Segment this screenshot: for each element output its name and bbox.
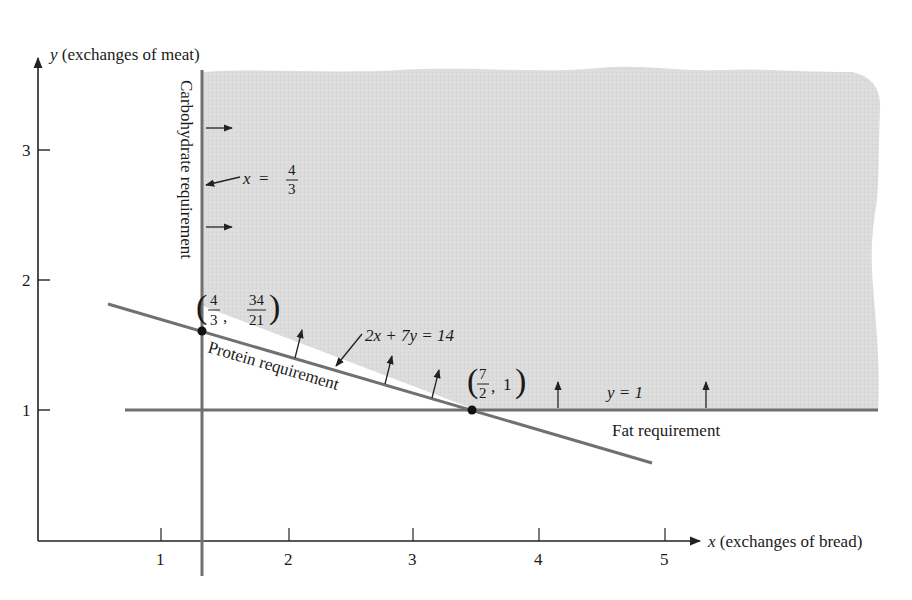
point-b-x-num: 7 (479, 366, 487, 382)
point-a-y-den: 21 (249, 312, 264, 328)
y-tick-label-2: 2 (22, 271, 31, 290)
svg-text:,: , (491, 377, 495, 396)
y-tick-label-1: 1 (22, 401, 31, 420)
x-tick-label-5: 5 (660, 550, 669, 569)
y-tick-label-3: 3 (22, 141, 31, 160)
carbohydrate-equation-lhs: x (242, 169, 251, 188)
x-axis-label: x (exchanges of bread) (707, 532, 862, 551)
right-paren: ) (269, 288, 280, 326)
left-paren: ( (467, 362, 478, 400)
x-tick-label-3: 3 (408, 550, 417, 569)
y-axis-label: y (exchanges of meat) (48, 45, 200, 64)
fat-equation: y = 1 (605, 383, 643, 402)
x-tick-label-4: 4 (534, 550, 543, 569)
point-a-x-den: 3 (210, 312, 218, 328)
point-b-y: 1 (503, 375, 512, 394)
fat-requirement-label: Fat requirement (612, 421, 720, 440)
right-paren: ) (515, 362, 526, 400)
point-a-x-num: 4 (210, 292, 218, 308)
carbohydrate-equation-eq: = (259, 169, 269, 188)
feasible-region (203, 67, 880, 410)
svg-text:,: , (223, 307, 227, 326)
carbohydrate-requirement-label: Carbohydrate requirement (177, 80, 196, 259)
point-a-y-num: 34 (249, 292, 265, 308)
left-paren: ( (196, 288, 207, 326)
carbohydrate-equation-den: 3 (288, 181, 296, 197)
y-axis: 3 2 1 y (exchanges of meat) (22, 45, 200, 541)
x-tick-label-1: 1 (156, 550, 165, 569)
x-axis: 1 2 3 4 5 x (exchanges of bread) (38, 528, 862, 569)
carbohydrate-equation-num: 4 (288, 162, 296, 178)
feasible-region-diagram: 3 2 1 y (exchanges of meat) 1 2 3 4 5 x … (0, 0, 912, 600)
x-tick-label-2: 2 (284, 550, 293, 569)
protein-equation: 2x + 7y = 14 (365, 326, 455, 345)
point-b-x-den: 2 (479, 385, 487, 401)
